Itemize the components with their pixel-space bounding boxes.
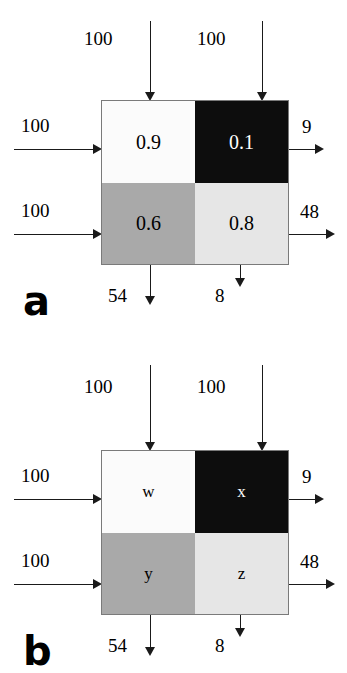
panel-a-matrix: 0.9 0.1 0.6 0.8	[101, 100, 289, 265]
panel-a: 100 100 100 100 0.9 0.1 0.6 0.8 9 48	[0, 0, 347, 340]
panel-b-left-input-label-1: 100	[21, 466, 50, 485]
panel-a-bottom-output-arrow-1	[144, 265, 155, 305]
panel-a-left-input-label-2: 100	[21, 201, 50, 220]
panel-a-bottom-output-label-2: 8	[215, 286, 225, 305]
panel-a-left-input-arrow-2	[14, 228, 102, 239]
panel-b-left-input-label-2: 100	[21, 551, 50, 570]
panel-b-bottom-output-label-1: 54	[108, 636, 127, 655]
panel-a-letter: a	[23, 281, 50, 321]
panel-b-top-input-label-1: 100	[84, 377, 113, 396]
panel-a-bottom-output-label-1: 54	[108, 286, 127, 305]
panel-a-right-output-label-1: 9	[302, 117, 312, 136]
panel-b-right-output-arrow-2	[289, 578, 335, 589]
panel-a-right-output-label-2: 48	[300, 202, 319, 221]
panel-b-bottom-output-arrow-2	[234, 615, 245, 637]
panel-a-cell-bottom-right[interactable]: 0.8	[195, 183, 288, 265]
panel-b-cell-bottom-right[interactable]: z	[195, 533, 288, 615]
panel-b-right-output-label-2: 48	[300, 552, 319, 571]
panel-b-bottom-output-arrow-1	[144, 615, 155, 656]
panel-a-top-input-arrow-2	[256, 21, 267, 101]
panel-a-right-output-arrow-2	[289, 228, 335, 239]
panel-b: 100 100 100 100 w x y z 9 48	[0, 335, 347, 673]
panel-a-left-input-label-1: 100	[21, 116, 50, 135]
panel-a-cell-top-right[interactable]: 0.1	[195, 101, 288, 183]
panel-a-top-input-arrow-1	[144, 21, 155, 101]
panel-a-right-output-arrow-1	[289, 143, 324, 154]
panel-a-cell-bottom-left[interactable]: 0.6	[102, 183, 195, 265]
panel-a-top-input-label-1: 100	[84, 29, 113, 48]
panel-b-cell-top-left[interactable]: w	[102, 451, 195, 533]
panel-b-right-output-label-1: 9	[302, 467, 312, 486]
panel-b-top-input-arrow-1	[144, 365, 155, 451]
panel-b-left-input-arrow-2	[14, 578, 102, 589]
panel-b-right-output-arrow-1	[289, 493, 324, 504]
panel-b-left-input-arrow-1	[14, 493, 102, 504]
panel-b-cell-bottom-left[interactable]: y	[102, 533, 195, 615]
panel-b-letter: b	[23, 631, 52, 671]
panel-a-cell-top-left[interactable]: 0.9	[102, 101, 195, 183]
panel-b-top-input-arrow-2	[256, 365, 267, 451]
panel-b-top-input-label-2: 100	[197, 377, 226, 396]
panel-a-left-input-arrow-1	[14, 143, 102, 154]
panel-b-bottom-output-label-2: 8	[215, 636, 225, 655]
panel-b-matrix: w x y z	[101, 450, 289, 615]
panel-a-bottom-output-arrow-2	[234, 265, 245, 287]
panel-a-top-input-label-2: 100	[197, 29, 226, 48]
panel-b-cell-top-right[interactable]: x	[195, 451, 288, 533]
